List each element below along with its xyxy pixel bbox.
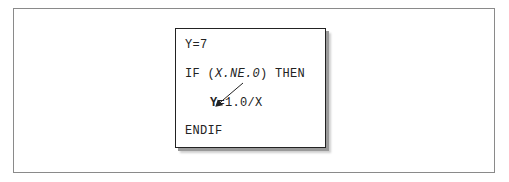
dependency-arrow-icon: [0, 0, 509, 182]
